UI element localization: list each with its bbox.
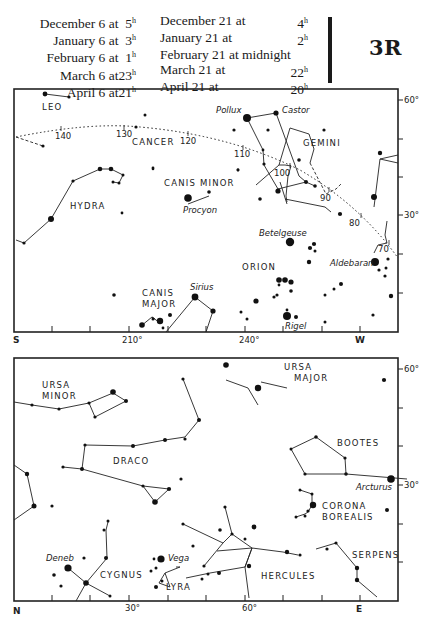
constellation-label: SERPENS	[352, 550, 399, 560]
svg-text:30°: 30°	[404, 480, 419, 490]
star-label: Arcturus	[355, 482, 393, 492]
constellation-labels: URSA MINOR URSA MAJOR DRACO BOOTES CORON…	[42, 362, 399, 592]
svg-text:E: E	[356, 604, 362, 614]
constellation-label: LYRA	[166, 582, 191, 592]
constellation-label: DRACO	[113, 456, 149, 466]
constellation-lines	[14, 379, 407, 601]
constellation-label: MAJOR	[294, 373, 328, 383]
constellation-label: BOREALIS	[322, 512, 374, 522]
constellation-label: URSA	[42, 380, 70, 390]
constellation-label: HERCULES	[261, 571, 316, 581]
stars	[25, 362, 395, 597]
svg-text:30°: 30°	[125, 603, 140, 613]
svg-text:60°: 60°	[404, 364, 419, 374]
star-label: Deneb	[46, 553, 74, 563]
star-label: Vega	[168, 553, 189, 563]
constellation-label: BOOTES	[337, 438, 379, 448]
svg-text:60°: 60°	[242, 603, 257, 613]
svg-text:N: N	[13, 606, 21, 616]
constellation-label: CORONA	[322, 501, 367, 511]
constellation-label: CYGNUS	[100, 570, 143, 580]
constellation-label: URSA	[284, 362, 312, 372]
constellation-label: MINOR	[42, 391, 77, 401]
north-star-chart: URSA MINOR URSA MAJOR DRACO BOOTES CORON…	[0, 0, 427, 622]
